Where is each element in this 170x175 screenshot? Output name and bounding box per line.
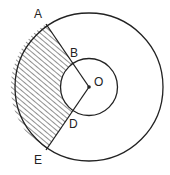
center-point [87, 85, 91, 89]
diagram: A B O D E [0, 0, 170, 175]
label-o: O [94, 75, 103, 89]
label-e: E [34, 153, 42, 167]
label-b: B [70, 46, 78, 60]
label-a: A [34, 7, 42, 21]
shaded-region [11, 24, 73, 150]
label-d: D [69, 117, 78, 131]
